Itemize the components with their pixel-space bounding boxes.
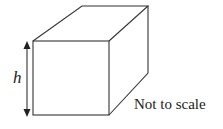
height-label: h xyxy=(13,69,22,86)
front-face xyxy=(33,41,109,115)
arrow-up-icon xyxy=(24,41,31,49)
not-to-scale-note: Not to scale xyxy=(134,97,206,112)
arrow-down-icon xyxy=(24,109,31,117)
top-face xyxy=(33,6,148,41)
